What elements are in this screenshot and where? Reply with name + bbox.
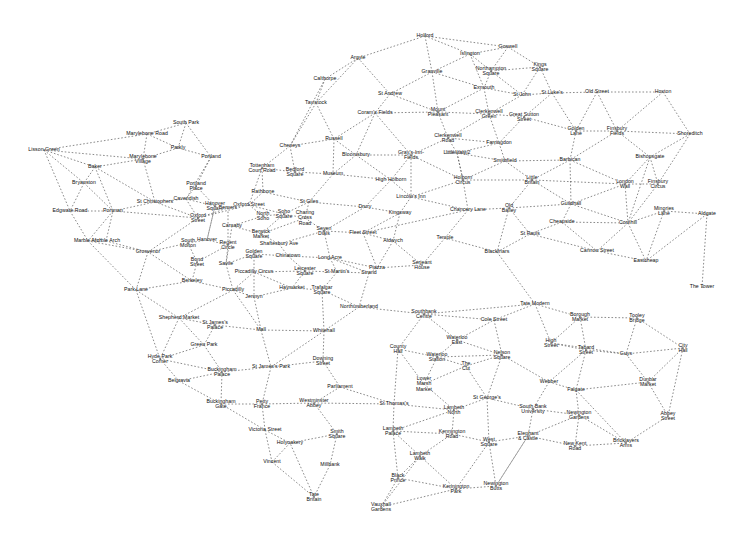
graph-node-dot[interactable] [539,66,541,68]
graph-node-dot[interactable] [392,430,394,432]
graph-node-dot[interactable] [225,263,227,265]
graph-node-dot[interactable] [462,179,464,181]
graph-node-dot[interactable] [185,122,187,124]
graph-node-dot[interactable] [627,222,629,224]
graph-node-dot[interactable] [112,210,114,212]
graph-node-dot[interactable] [206,239,208,241]
graph-node-dot[interactable] [187,242,189,244]
graph-node-dot[interactable] [253,271,255,273]
graph-node-dot[interactable] [624,183,626,185]
graph-node-dot[interactable] [177,147,179,149]
graph-node-dot[interactable] [324,78,326,80]
graph-node-dot[interactable] [423,313,425,315]
graph-node-dot[interactable] [374,112,376,114]
graph-node-dot[interactable] [521,94,523,96]
graph-node-dot[interactable] [197,217,199,219]
graph-node-dot[interactable] [333,138,335,140]
graph-node-dot[interactable] [264,429,266,431]
graph-node-dot[interactable] [94,166,96,168]
graph-node-dot[interactable] [399,212,401,214]
graph-node-dot[interactable] [147,251,149,253]
graph-node-dot[interactable] [178,317,180,319]
graph-node-dot[interactable] [662,91,664,93]
graph-node-dot[interactable] [358,306,360,308]
graph-node-dot[interactable] [323,230,325,232]
graph-node-dot[interactable] [578,414,580,416]
graph-node-dot[interactable] [227,244,229,246]
graph-node-dot[interactable] [437,111,439,113]
graph-node-dot[interactable] [701,286,703,288]
graph-node-dot[interactable] [456,339,458,341]
graph-node-dot[interactable] [663,210,665,212]
graph-node-dot[interactable] [260,329,262,331]
graph-node-dot[interactable] [496,251,498,253]
graph-node-dot[interactable] [220,403,222,405]
graph-node-dot[interactable] [178,380,180,382]
graph-node-dot[interactable] [682,347,684,349]
graph-node-dot[interactable] [294,171,296,173]
graph-node-dot[interactable] [410,154,412,156]
graph-node-dot[interactable] [232,289,234,291]
graph-node-dot[interactable] [649,156,651,158]
graph-node-dot[interactable] [142,158,144,160]
graph-node-dot[interactable] [210,156,212,158]
graph-node-dot[interactable] [159,358,161,360]
graph-node-dot[interactable] [336,433,338,435]
graph-node-dot[interactable] [221,371,223,373]
graph-node-dot[interactable] [214,205,216,207]
graph-node-dot[interactable] [532,408,534,410]
graph-node-dot[interactable] [498,142,500,144]
graph-node-dot[interactable] [490,70,492,72]
graph-node-dot[interactable] [508,207,510,209]
graph-node-dot[interactable] [315,102,317,104]
graph-node-dot[interactable] [585,349,587,351]
graph-node-dot[interactable] [392,240,394,242]
graph-node-dot[interactable] [551,92,553,94]
graph-node-dot[interactable] [397,477,399,479]
graph-node-dot[interactable] [83,182,85,184]
graph-node-dot[interactable] [689,133,691,135]
graph-node-dot[interactable] [195,185,197,187]
graph-node-dot[interactable] [451,433,453,435]
graph-node-dot[interactable] [507,46,509,48]
graph-node-dot[interactable] [483,87,485,89]
graph-node-dot[interactable] [227,207,229,209]
graph-node-dot[interactable] [501,354,503,356]
graph-node-dot[interactable] [444,237,446,239]
graph-node-dot[interactable] [105,240,107,242]
graph-node-dot[interactable] [495,485,497,487]
graph-node-dot[interactable] [380,506,382,508]
graph-node-dot[interactable] [283,213,285,215]
graph-node-dot[interactable] [447,137,449,139]
graph-node-dot[interactable] [579,316,581,318]
graph-node-dot[interactable] [467,209,469,211]
graph-node-dot[interactable] [570,203,572,205]
graph-node-dot[interactable] [253,253,255,255]
graph-node-dot[interactable] [43,149,45,151]
graph-node-dot[interactable] [87,240,89,242]
graph-node-dot[interactable] [154,201,156,203]
graph-node-dot[interactable] [304,270,306,272]
graph-node-dot[interactable] [203,344,205,346]
graph-node-dot[interactable] [278,243,280,245]
graph-node-dot[interactable] [410,196,412,198]
graph-node-dot[interactable] [364,206,366,208]
graph-node-dot[interactable] [529,233,531,235]
graph-node-dot[interactable] [390,179,392,181]
graph-node-dot[interactable] [493,319,495,321]
graph-node-dot[interactable] [248,204,250,206]
graph-node-dot[interactable] [196,261,198,263]
graph-node-dot[interactable] [355,154,357,156]
graph-node-dot[interactable] [575,389,577,391]
graph-node-dot[interactable] [431,71,433,73]
graph-node-dot[interactable] [436,356,438,358]
graph-node-dot[interactable] [362,232,364,234]
graph-node-dot[interactable] [376,267,378,269]
graph-node-dot[interactable] [389,93,391,95]
graph-node-dot[interactable] [625,353,627,355]
graph-node-dot[interactable] [625,442,627,444]
graph-node-dot[interactable] [706,213,708,215]
graph-node-dot[interactable] [647,381,649,383]
graph-node-dot[interactable] [321,289,323,291]
graph-node-dot[interactable] [561,221,563,223]
